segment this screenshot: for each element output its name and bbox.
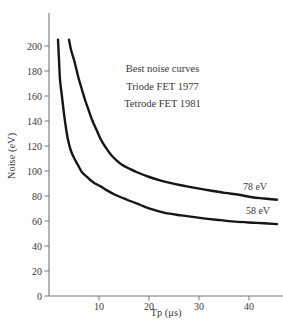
y-axis-label: Noise (eV) bbox=[6, 116, 20, 196]
annotation-line-tetrode: Tetrode FET 1981 bbox=[92, 95, 233, 113]
x-tick-label: 10 bbox=[94, 301, 104, 312]
y-tick-label: 40 bbox=[32, 241, 42, 252]
y-tick-label: 20 bbox=[32, 266, 42, 277]
y-tick-label: 60 bbox=[32, 216, 42, 227]
y-tick-label: 100 bbox=[27, 166, 42, 177]
y-tick-label: 120 bbox=[27, 141, 42, 152]
x-axis-label: Tp (μs) bbox=[116, 307, 216, 318]
y-tick-label: 140 bbox=[27, 116, 42, 127]
annotation-block: Best noise curves Triode FET 1977 Tetrod… bbox=[92, 60, 233, 113]
y-tick-label: 180 bbox=[27, 66, 42, 77]
plot-area: 02040608010012014016018020010203040 bbox=[0, 0, 283, 330]
y-tick-label: 80 bbox=[32, 191, 42, 202]
curve-label-78ev: 78 eV bbox=[233, 181, 277, 192]
y-tick-label: 200 bbox=[27, 41, 42, 52]
y-tick-label: 0 bbox=[37, 291, 42, 302]
x-tick-label: 40 bbox=[244, 301, 254, 312]
annotation-line-title: Best noise curves bbox=[92, 60, 233, 78]
annotation-line-triode: Triode FET 1977 bbox=[92, 78, 233, 96]
curve-label-58ev: 58 eV bbox=[236, 205, 280, 216]
noise-curves-figure: 02040608010012014016018020010203040 Nois… bbox=[0, 0, 283, 330]
y-tick-label: 160 bbox=[27, 91, 42, 102]
